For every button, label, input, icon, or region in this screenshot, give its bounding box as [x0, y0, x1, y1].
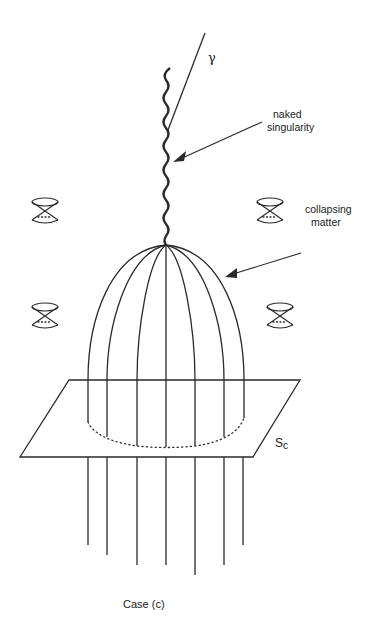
- collapsing-matter-arrow: [225, 253, 301, 278]
- naked-singularity-label-line1: naked: [273, 108, 302, 120]
- gamma-null-ray: [168, 33, 205, 130]
- collapsing-matter-dome: [88, 245, 244, 448]
- worldlines-below-plane: [88, 457, 243, 575]
- spacetime-diagram: γ naked singularity collapsing matter: [0, 0, 372, 622]
- gamma-label: γ: [208, 50, 216, 65]
- light-cone-icon: [32, 303, 58, 328]
- surface-label-subscript: c: [283, 440, 288, 451]
- figure-caption: Case (c): [123, 598, 165, 610]
- naked-singularity-arrow: [173, 122, 262, 162]
- light-cone-icon: [257, 198, 283, 223]
- collapsing-matter-label-line2: matter: [311, 216, 341, 228]
- naked-singularity-wavy-line: [164, 68, 171, 245]
- light-cone-icon: [267, 303, 293, 328]
- light-cone-icon: [32, 198, 58, 223]
- cauchy-surface-plane: [20, 380, 300, 457]
- collapsing-matter-label-line1: collapsing: [305, 203, 352, 215]
- surface-label: Sc: [275, 436, 288, 451]
- naked-singularity-label-line2: singularity: [267, 121, 315, 133]
